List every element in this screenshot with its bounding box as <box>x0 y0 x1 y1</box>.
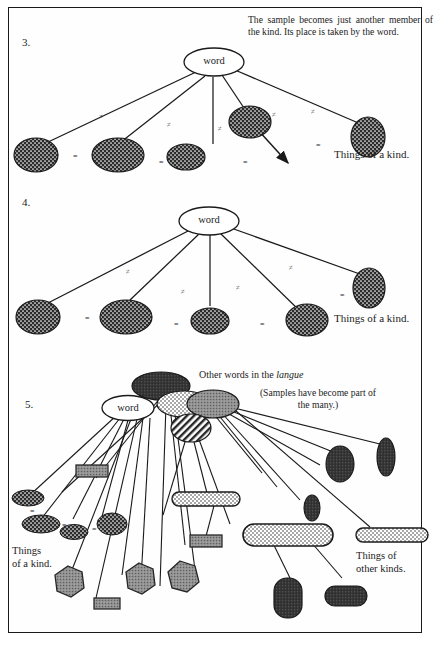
diagram-3-eq-1: = <box>73 152 78 161</box>
diagram-3-kind-label: Things of a kind. <box>334 148 409 161</box>
diagram-5-eq-2: = <box>62 521 67 530</box>
diagram-5-kind-label: Things of a kind. <box>12 545 52 570</box>
diagram-4-neq-4: ≠ <box>289 264 293 272</box>
diagram-5-other-kinds-label: Things of other kinds. <box>356 550 406 575</box>
diagram-4-neq-3: ≠ <box>236 284 240 292</box>
diagram-3-neq-4: ≠ <box>272 111 276 119</box>
diagram-4-eq-1: = <box>85 314 90 323</box>
diagram-5-eq-3: = <box>92 525 97 534</box>
other-words-prefix: Other words in the <box>199 369 276 380</box>
diagram-4-kind-label: Things of a kind. <box>334 312 409 325</box>
diagram-4-neq-1: ≠ <box>126 268 130 276</box>
diagram-4-word-label: word <box>185 214 233 225</box>
diagram-3-neq-1: ≠ <box>99 113 103 121</box>
diagram-4-number: 4. <box>22 196 30 208</box>
diagram-4-neq-2: ≠ <box>181 288 185 296</box>
diagram-4-eq-4: = <box>340 291 345 300</box>
other-kinds-line-2: other kinds. <box>356 563 406 576</box>
diagram-5-number: 5. <box>25 398 33 410</box>
diagram-3-number: 3. <box>22 36 30 48</box>
diagram-3-note: The sample becomes just another member o… <box>248 14 433 37</box>
diagram-4-eq-3: = <box>260 320 265 329</box>
diagram-3-neq-5: ≠ <box>311 108 315 116</box>
figure-page: 3. The sample becomes just another membe… <box>0 0 434 651</box>
diagram-5-eq-1: = <box>30 507 35 516</box>
diagram-3-eq-4: = <box>316 141 321 150</box>
kind-label-line-2: of a kind. <box>12 558 52 571</box>
diagram-4-eq-2: = <box>174 320 179 329</box>
diagram-5-other-words-label: Other words in the langue <box>199 369 303 381</box>
diagram-3-eq-3: = <box>243 158 248 167</box>
other-words-italic: langue <box>276 369 303 380</box>
diagram-3-neq-3: ≠ <box>218 125 222 133</box>
other-kinds-line-1: Things of <box>356 550 406 563</box>
diagram-5-samples-note: (Samples have become part of the many.) <box>258 387 378 411</box>
kind-label-line-1: Things <box>12 545 52 558</box>
diagram-5-word-label: word <box>105 402 151 413</box>
diagram-3-eq-2: = <box>159 158 164 167</box>
diagram-3-word-label: word <box>190 55 238 66</box>
diagram-3-neq-2: ≠ <box>167 121 171 129</box>
